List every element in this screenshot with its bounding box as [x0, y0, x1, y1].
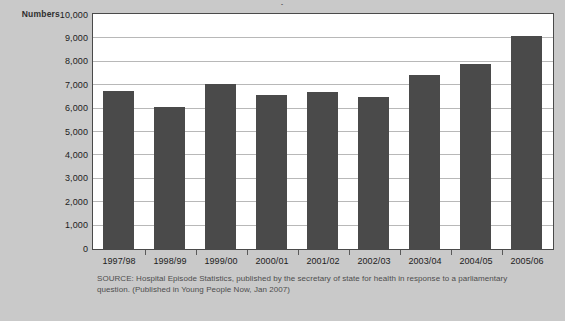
y-axis-tick-labels: 10,0009,0008,0007,0006,0005,0004,0003,00… [40, 0, 88, 321]
x-tick-label: 2005/06 [510, 256, 543, 266]
x-tick [247, 250, 248, 255]
y-tick-label: 8,000 [40, 56, 88, 66]
bar [358, 97, 390, 249]
x-tick-label: 2003/04 [408, 256, 441, 266]
bar [205, 84, 237, 249]
source-note: SOURCE: Hospital Episode Statistics, pub… [97, 274, 537, 295]
x-tick [349, 250, 350, 255]
bar-chart-figure: Numbers 10,0009,0008,0007,0006,0005,0004… [0, 0, 565, 321]
bar [409, 75, 441, 249]
x-tick-label: 2001/02 [306, 256, 339, 266]
bar [460, 64, 492, 249]
y-tick-label: 3,000 [40, 173, 88, 183]
y-tick-label: 0 [40, 244, 88, 254]
x-tick [400, 250, 401, 255]
y-tick-label: 7,000 [40, 80, 88, 90]
x-tick [451, 250, 452, 255]
x-tick [298, 250, 299, 255]
x-tick-label: 1997/98 [102, 256, 135, 266]
y-tick-label: 6,000 [40, 103, 88, 113]
x-tick [145, 250, 146, 255]
x-tick [196, 250, 197, 255]
source-line-2: question. (Published in Young People Now… [97, 285, 537, 296]
x-tick-label: 1998/99 [153, 256, 186, 266]
x-tick-label: 2002/03 [357, 256, 390, 266]
x-tick-label: 1999/00 [204, 256, 237, 266]
y-tick-label: 5,000 [40, 127, 88, 137]
bar [103, 91, 135, 249]
x-tick-label: 2004/05 [459, 256, 492, 266]
y-tick-label: 4,000 [40, 150, 88, 160]
x-tick-label: 2000/01 [255, 256, 288, 266]
y-tick-label: 1,000 [40, 220, 88, 230]
bar [511, 36, 543, 249]
y-tick-label: 9,000 [40, 33, 88, 43]
x-axis-tick-labels: 1997/981998/991999/002000/012001/022002/… [92, 256, 554, 272]
source-line-1: SOURCE: Hospital Episode Statistics, pub… [97, 274, 537, 285]
bar [154, 107, 186, 249]
x-tick [502, 250, 503, 255]
bar [256, 95, 288, 249]
bar-series [93, 14, 553, 249]
y-tick-label: 10,000 [40, 10, 88, 20]
bar [307, 92, 339, 249]
y-tick-label: 2,000 [40, 197, 88, 207]
plot-area [92, 13, 554, 250]
